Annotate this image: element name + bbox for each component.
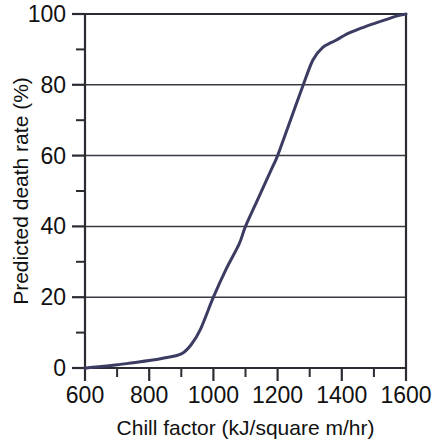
x-tick-label-600: 600: [66, 382, 104, 408]
y-axis-tick-labels: 020406080100: [28, 1, 66, 381]
x-tick-label-1000: 1000: [188, 382, 239, 408]
x-axis-tick-labels: 6008001000120014001600: [66, 382, 432, 408]
gridlines: [85, 14, 406, 368]
x-tick-label-1400: 1400: [316, 382, 367, 408]
y-tick-label-60: 60: [40, 143, 66, 169]
y-tick-label-20: 20: [40, 284, 66, 310]
data-series-line: [85, 14, 406, 368]
minor-tick-marks: [76, 49, 374, 377]
x-axis-title: Chill factor (kJ/square m/hr): [117, 416, 375, 439]
predicted-death-rate-line-chart: 6008001000120014001600 020406080100 Chil…: [0, 0, 437, 447]
x-tick-label-1200: 1200: [252, 382, 303, 408]
plot-frame: [85, 14, 406, 368]
chart-figure: 6008001000120014001600 020406080100 Chil…: [0, 0, 437, 447]
y-tick-label-80: 80: [40, 72, 66, 98]
x-tick-label-800: 800: [130, 382, 168, 408]
y-axis-title: Predicted death rate (%): [9, 77, 32, 305]
major-tick-marks: [72, 14, 406, 381]
axes-frame: [85, 14, 406, 368]
y-tick-label-100: 100: [28, 1, 66, 27]
y-tick-label-0: 0: [53, 355, 66, 381]
y-tick-label-40: 40: [40, 213, 66, 239]
x-tick-label-1600: 1600: [380, 382, 431, 408]
